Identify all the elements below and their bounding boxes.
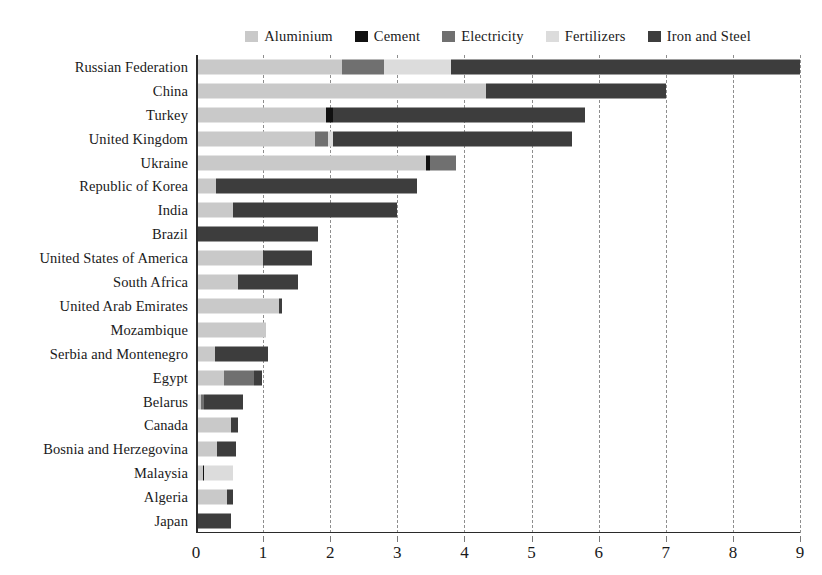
y-axis-category-labels: Russian FederationChinaTurkeyUnited King… <box>0 55 188 533</box>
bar-segment-aluminium <box>196 83 486 98</box>
bar-row[interactable] <box>196 294 800 318</box>
stacked-bar[interactable] <box>196 227 318 242</box>
y-axis-label: Turkey <box>146 108 188 123</box>
x-axis-tick-label: 6 <box>594 544 603 561</box>
y-axis-label: Republic of Korea <box>79 179 188 194</box>
bar-segment-iron-and-steel <box>451 59 800 74</box>
bar-row[interactable] <box>196 342 800 366</box>
x-axis-tick <box>464 536 468 542</box>
bar-segment-iron-and-steel <box>231 418 238 433</box>
y-axis-label: Mozambique <box>110 323 188 338</box>
chart-legend: AluminiumCementElectricityFertilizersIro… <box>196 26 800 46</box>
bar-segment-iron-and-steel <box>254 370 261 385</box>
stacked-bar[interactable] <box>196 107 585 122</box>
x-axis-tick-label: 0 <box>192 544 201 561</box>
bar-row[interactable] <box>196 151 800 175</box>
bar-row[interactable] <box>196 414 800 438</box>
bar-row[interactable] <box>196 246 800 270</box>
bar-row[interactable] <box>196 461 800 485</box>
stacked-bar[interactable] <box>196 418 238 433</box>
bar-row[interactable] <box>196 222 800 246</box>
stacked-bar-chart: AluminiumCementElectricityFertilizersIro… <box>0 0 822 575</box>
bar-segment-iron-and-steel <box>217 442 236 457</box>
bar-row[interactable] <box>196 485 800 509</box>
stacked-bar[interactable] <box>196 131 572 146</box>
stacked-bar[interactable] <box>196 346 268 361</box>
bar-segment-fertilizers <box>204 466 233 481</box>
y-axis-label: Algeria <box>144 490 188 505</box>
legend-item-aluminium[interactable]: Aluminium <box>245 29 333 44</box>
x-axis-tick-label: 7 <box>662 544 671 561</box>
stacked-bar[interactable] <box>196 370 262 385</box>
bar-row[interactable] <box>196 175 800 199</box>
x-axis-tick <box>800 536 804 542</box>
stacked-bar[interactable] <box>196 442 236 457</box>
y-axis-label: Serbia and Montenegro <box>50 347 188 362</box>
plot-area <box>196 55 800 533</box>
bar-segment-aluminium <box>196 370 224 385</box>
legend-label: Aluminium <box>264 29 333 44</box>
bar-row[interactable] <box>196 390 800 414</box>
bar-row[interactable] <box>196 509 800 533</box>
legend-item-cement[interactable]: Cement <box>355 29 420 44</box>
stacked-bar[interactable] <box>196 298 282 313</box>
bar-segment-aluminium <box>196 179 216 194</box>
bar-segment-iron-and-steel <box>486 83 666 98</box>
legend-swatch-icon <box>648 31 661 42</box>
bar-segment-iron-and-steel <box>196 227 318 242</box>
legend-label: Electricity <box>461 29 524 44</box>
bar-row[interactable] <box>196 366 800 390</box>
bar-segment-aluminium <box>196 275 238 290</box>
y-axis-label: Ukraine <box>141 156 188 171</box>
stacked-bar[interactable] <box>196 322 266 337</box>
y-axis-label: Canada <box>144 418 188 433</box>
bar-segment-aluminium <box>196 203 233 218</box>
x-axis-tick <box>599 536 603 542</box>
stacked-bar[interactable] <box>196 203 397 218</box>
y-axis-label: China <box>153 84 188 99</box>
stacked-bar[interactable] <box>196 59 800 74</box>
bar-row[interactable] <box>196 270 800 294</box>
legend-item-electricity[interactable]: Electricity <box>442 29 524 44</box>
stacked-bar[interactable] <box>196 179 417 194</box>
y-axis-label: Japan <box>154 514 188 529</box>
bar-segment-electricity <box>430 155 457 170</box>
x-axis-tick-label: 1 <box>259 544 268 561</box>
x-axis-tick-label: 9 <box>796 544 805 561</box>
bar-row[interactable] <box>196 79 800 103</box>
bar-segment-iron-and-steel <box>279 298 282 313</box>
stacked-bar[interactable] <box>196 155 456 170</box>
bar-segment-iron-and-steel <box>263 251 312 266</box>
x-axis-tick <box>733 536 737 542</box>
legend-label: Cement <box>374 29 420 44</box>
bar-segment-aluminium <box>196 59 342 74</box>
bar-segment-iron-and-steel <box>238 275 298 290</box>
bar-row[interactable] <box>196 318 800 342</box>
legend-item-iron-and-steel[interactable]: Iron and Steel <box>648 29 751 44</box>
bar-row[interactable] <box>196 55 800 79</box>
y-axis-label: Belarus <box>143 395 188 410</box>
y-axis-label: India <box>158 203 188 218</box>
stacked-bar[interactable] <box>196 394 243 409</box>
bar-row[interactable] <box>196 103 800 127</box>
bar-segment-aluminium <box>196 418 231 433</box>
stacked-bar[interactable] <box>196 514 231 529</box>
legend-swatch-icon <box>546 31 559 42</box>
bar-segment-iron-and-steel <box>227 490 233 505</box>
bar-row[interactable] <box>196 437 800 461</box>
stacked-bar[interactable] <box>196 490 233 505</box>
stacked-bar[interactable] <box>196 466 233 481</box>
x-axis-tick <box>263 536 267 542</box>
gridline-9 <box>800 55 801 533</box>
bar-segment-iron-and-steel <box>215 346 269 361</box>
bar-segment-aluminium <box>196 442 217 457</box>
bar-segment-iron-and-steel <box>204 394 243 409</box>
bar-row[interactable] <box>196 127 800 151</box>
bar-row[interactable] <box>196 198 800 222</box>
legend-item-fertilizers[interactable]: Fertilizers <box>546 29 626 44</box>
stacked-bar[interactable] <box>196 251 312 266</box>
x-axis-tick-label: 5 <box>527 544 536 561</box>
y-axis-label: Egypt <box>153 371 188 386</box>
stacked-bar[interactable] <box>196 83 666 98</box>
stacked-bar[interactable] <box>196 275 298 290</box>
